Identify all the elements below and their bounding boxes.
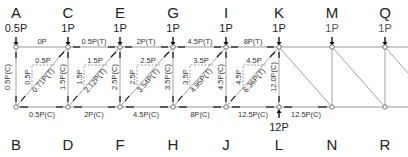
force-JL: 12.5P(C): [238, 110, 269, 119]
component-h-3: 2.5P: [140, 56, 155, 65]
force-JK: 6.36P(T): [241, 66, 267, 94]
load-E: 1P: [113, 22, 126, 34]
node-label-R: R: [380, 136, 391, 153]
force-IJ: 4.5P(C): [216, 64, 225, 90]
load-Q: 1P: [378, 22, 391, 34]
node-label-M: M: [326, 4, 339, 21]
force-GH: 3.5P(C): [163, 64, 172, 90]
node-label-B: B: [11, 136, 21, 153]
node-label-F: F: [115, 136, 124, 153]
load-I: 1P: [219, 22, 232, 34]
load-M: 1P: [325, 22, 338, 34]
node-label-C: C: [63, 4, 74, 21]
force-CD: 1.5P(C): [58, 64, 67, 90]
force-EF: 2.5P(C): [110, 64, 119, 90]
node-label-H: H: [168, 136, 179, 153]
force-EG: 2P(T): [137, 37, 156, 46]
component-h-4: 3.5P: [193, 56, 208, 65]
component-h-5: 4.5P: [246, 56, 261, 65]
component-h-1: 0.5P: [35, 56, 50, 65]
force-CE: 0.5P(T): [81, 37, 107, 46]
force-FH: 4.5P(C): [133, 110, 159, 119]
force-AB: 0.5P(C): [3, 64, 12, 90]
truss-diagram: A C E G I K M Q 0.5P 1P 1P 1P 1P 1P 1P 1…: [0, 0, 408, 157]
force-HJ: 8P(C): [190, 110, 210, 119]
node-label-J: J: [222, 136, 230, 153]
load-G: 1P: [166, 22, 179, 34]
component-h-2: 1.5P: [87, 56, 102, 65]
force-DF: 2P(C): [84, 110, 104, 119]
node-label-K: K: [274, 4, 284, 21]
node-label-D: D: [63, 136, 74, 153]
node-label-E: E: [115, 4, 125, 21]
force-AC: 0P: [37, 37, 46, 46]
force-LN: 12.5P(C): [291, 110, 322, 119]
node-label-Q: Q: [379, 4, 391, 21]
component-v-4: 3.5P: [181, 69, 190, 84]
component-v-2: 1.5P: [75, 69, 84, 84]
force-HI: 4.95P(T): [188, 66, 214, 94]
component-v-3: 2.5P: [128, 69, 137, 84]
load-C: 1P: [61, 22, 74, 34]
force-KL: 12.0P(C): [269, 61, 278, 92]
load-K: 1P: [272, 22, 285, 34]
load-A: 0.5P: [5, 22, 28, 34]
force-DE: 2.12P(T): [82, 66, 108, 94]
node-label-G: G: [167, 4, 179, 21]
node-label-I: I: [224, 4, 228, 21]
force-FG: 3.54P(T): [135, 66, 161, 94]
force-BC: 0.71P(T): [30, 66, 56, 94]
component-v-5: 4.5P: [234, 69, 243, 84]
force-GI: 4.5P(T): [187, 37, 213, 46]
node-label-A: A: [11, 4, 21, 21]
force-BD: 0.5P(C): [29, 110, 55, 119]
component-v-1: 0.5P: [23, 69, 32, 84]
node-label-L: L: [275, 136, 283, 153]
node-label-N: N: [327, 136, 338, 153]
force-IK: 8P(T): [244, 37, 263, 46]
reaction-L: 12P: [269, 121, 289, 133]
